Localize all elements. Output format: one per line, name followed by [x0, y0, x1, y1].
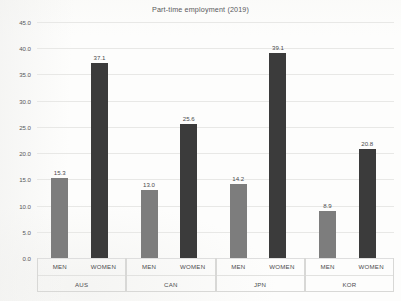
bar-value-label-aus-men: 15.3 [45, 169, 75, 176]
x-axis-group-can: MENWOMENCAN [126, 258, 215, 292]
y-tick-label: 5.0 [0, 228, 31, 235]
x-axis-subcategory-label-men: MEN [217, 258, 261, 275]
bar-kor-men [319, 211, 336, 258]
x-axis-subcategory-label-men: MEN [306, 258, 350, 275]
bar-value-label-aus-women: 37.1 [84, 54, 114, 61]
bar-can-women [180, 124, 197, 258]
x-axis-subcategory-row: MENWOMEN [217, 258, 304, 275]
x-axis-subcategory-label-men: MEN [38, 258, 82, 275]
bar-value-label-can-men: 13.0 [134, 181, 164, 188]
y-tick-label: 0.0 [0, 255, 31, 262]
x-axis-category-table: MENWOMENAUSMENWOMENCANMENWOMENJPNMENWOME… [37, 258, 394, 292]
x-axis-subcategory-label-women: WOMEN [82, 258, 126, 275]
x-axis-group-label: JPN [217, 275, 304, 292]
x-axis-subcategory-label-men: MEN [127, 258, 171, 275]
bar-value-label-jpn-men: 14.2 [223, 175, 253, 182]
x-axis-group-kor: MENWOMENKOR [305, 258, 394, 292]
y-tick-label: 10.0 [0, 202, 31, 209]
x-axis-group-aus: MENWOMENAUS [37, 258, 126, 292]
gridline-40-0 [37, 48, 394, 49]
x-axis-subcategory-label-women: WOMEN [349, 258, 393, 275]
plot-area: 0.05.010.015.020.025.030.035.040.045.0 1… [37, 22, 394, 258]
y-tick-label: 15.0 [0, 176, 31, 183]
bar-jpn-men [230, 184, 247, 258]
x-axis-group-jpn: MENWOMENJPN [216, 258, 305, 292]
bar-aus-women [91, 63, 108, 258]
bar-can-men [141, 190, 158, 258]
x-axis-subcategory-label-women: WOMEN [171, 258, 215, 275]
chart-title: Part-time employment (2019) [0, 5, 401, 14]
y-tick-label: 45.0 [0, 19, 31, 26]
bar-value-label-can-women: 25.6 [174, 115, 204, 122]
x-axis-subcategory-row: MENWOMEN [127, 258, 214, 275]
y-tick-label: 20.0 [0, 150, 31, 157]
x-axis-subcategory-label-women: WOMEN [260, 258, 304, 275]
x-axis-group-label: AUS [38, 275, 125, 292]
bar-value-label-jpn-women: 39.1 [263, 44, 293, 51]
chart-page: Part-time employment (2019) 0.05.010.015… [0, 0, 401, 301]
x-axis-subcategory-row: MENWOMEN [38, 258, 125, 275]
x-axis-group-label: KOR [306, 275, 393, 292]
y-tick-label: 40.0 [0, 45, 31, 52]
y-tick-label: 30.0 [0, 97, 31, 104]
bar-aus-men [51, 178, 68, 258]
bar-kor-women [359, 149, 376, 258]
gridline-45-0 [37, 22, 394, 23]
y-tick-label: 25.0 [0, 123, 31, 130]
x-axis-group-label: CAN [127, 275, 214, 292]
y-tick-label: 35.0 [0, 71, 31, 78]
bar-value-label-kor-men: 8.9 [313, 202, 343, 209]
bar-value-label-kor-women: 20.8 [352, 140, 382, 147]
bar-jpn-women [269, 53, 286, 258]
x-axis-subcategory-row: MENWOMEN [306, 258, 393, 275]
